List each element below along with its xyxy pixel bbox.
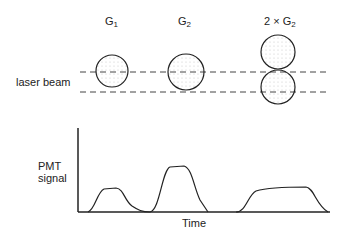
diagram-canvas <box>0 0 343 235</box>
label-g1: G1 <box>105 15 118 31</box>
label-pmt-signal: PMTsignal <box>38 160 67 184</box>
particle-g1 <box>96 55 128 87</box>
pmt-signal-curve <box>88 166 328 212</box>
label-time-axis: Time <box>182 217 206 229</box>
label-laser-beam: laser beam <box>16 76 70 88</box>
label-g2: G2 <box>178 15 191 31</box>
label-2xg2: 2 × G2 <box>264 15 296 31</box>
particle-2xg2-bottom <box>261 70 295 104</box>
particle-2xg2-top <box>261 35 295 69</box>
particle-g2 <box>168 54 204 90</box>
